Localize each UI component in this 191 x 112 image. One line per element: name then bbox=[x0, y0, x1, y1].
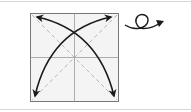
turn-over-icon bbox=[125, 15, 164, 29]
origami-diagram bbox=[0, 0, 191, 112]
